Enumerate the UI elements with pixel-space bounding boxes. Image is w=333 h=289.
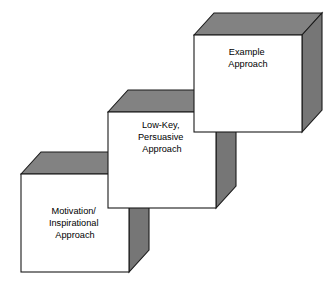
cube-step-1-line-2: Inspirational (49, 218, 99, 228)
cube-progression-diagram: Motivation/ Inspirational Approach Low-K… (0, 0, 333, 289)
diagram-canvas: Motivation/ Inspirational Approach Low-K… (0, 0, 333, 289)
cube-step-1-line-1: Motivation/ (52, 206, 97, 216)
cube-step-2-label: Low-Key, Persuasive Approach (138, 120, 186, 154)
cube-step-1-label: Motivation/ Inspirational Approach (49, 206, 101, 240)
cube-step-3-top-face (194, 13, 322, 35)
cube-step-3-line-1: Example (229, 47, 265, 57)
cube-step-3-line-2: Approach (228, 59, 267, 69)
cube-step-2-line-1: Low-Key, (142, 120, 180, 130)
cube-step-2-line-2: Persuasive (138, 132, 183, 142)
cube-step-1-line-3: Approach (55, 230, 94, 240)
cube-step-3[interactable]: Example Approach (194, 13, 322, 132)
cube-step-2-line-3: Approach (142, 144, 181, 154)
